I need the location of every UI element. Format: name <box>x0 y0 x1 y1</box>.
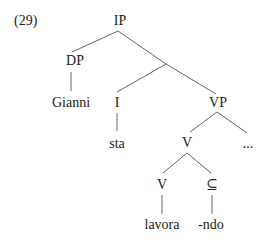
branch-ip-ibar <box>118 31 166 64</box>
node-lavora: lavora <box>145 218 180 232</box>
node-i: I <box>115 96 120 110</box>
node-subset: ⊆ <box>206 178 218 192</box>
node-vp: VP <box>209 96 227 110</box>
branch-vp-ellipsis <box>217 112 247 133</box>
node-sta: sta <box>109 137 125 151</box>
branch-v-subset <box>187 153 211 173</box>
node-ndo: -ndo <box>198 218 224 232</box>
node-ellipsis: ... <box>243 137 254 151</box>
node-ip: IP <box>114 14 126 28</box>
node-v-lower: V <box>157 178 167 192</box>
node-gianni: Gianni <box>52 96 90 110</box>
branch-ibar-vp <box>166 64 216 94</box>
node-v-upper: V <box>182 136 192 150</box>
node-dp: DP <box>66 54 84 68</box>
branch-v-v <box>163 153 187 173</box>
branch-vp-v <box>190 112 217 132</box>
branch-ibar-i <box>117 64 166 92</box>
branch-ip-dp <box>72 31 118 52</box>
syntax-tree-branches <box>0 0 267 248</box>
